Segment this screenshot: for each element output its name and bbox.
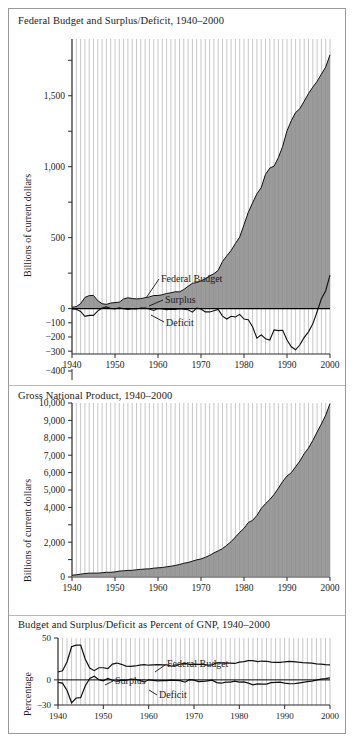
ytick-label-stray: −400: [45, 366, 65, 376]
annotation-deficit: Deficit: [159, 689, 187, 700]
xtick-label: 1980: [235, 583, 254, 593]
xtick-label: 2000: [321, 360, 340, 370]
ytick-label: 8,000: [44, 433, 66, 443]
ytick-label: 0: [60, 304, 65, 314]
ytick-label: 500: [51, 233, 66, 243]
xtick-label: 2000: [321, 583, 340, 593]
xtick-label: 1940: [63, 360, 82, 370]
xtick-label: 1980: [230, 711, 249, 721]
xtick-label: 1950: [106, 583, 125, 593]
chart1-plot: −300−200−10005001,0001,50019401950196019…: [9, 9, 345, 385]
ytick-label: 10,000: [39, 398, 65, 408]
xtick-label: 1940: [63, 583, 82, 593]
annotation-surplus: Surplus: [115, 675, 146, 686]
chart3-group: −300501940195019601970198019902000Federa…: [37, 633, 340, 721]
chart2-group: 02,0004,0005,0006,0007,0008,0009,00010,0…: [39, 398, 340, 593]
ytick-label: 7,000: [44, 451, 66, 461]
ytick-label: −100: [45, 318, 65, 328]
ytick-label: 2,000: [44, 538, 66, 548]
chart3-svg: −300501940195019601970198019902000Federa…: [9, 616, 345, 734]
chart-panel-federal-budget: Federal Budget and Surplus/Deficit, 1940…: [9, 9, 345, 385]
chart-panel-gnp: Gross National Product, 1940–2000 Billio…: [9, 386, 345, 615]
figure-page: Federal Budget and Surplus/Deficit, 1940…: [0, 0, 355, 742]
ytick-label: 9,000: [44, 416, 66, 426]
ytick-label: 50: [42, 633, 52, 643]
xtick-label: 1950: [94, 711, 113, 721]
xtick-label: 1970: [192, 360, 211, 370]
ytick-label: 0: [60, 572, 65, 582]
ytick-label: 1,500: [44, 91, 66, 101]
xtick-label: 1970: [192, 583, 211, 593]
chart-panel-percent-gnp: Budget and Surplus/Deficit as Percent of…: [9, 616, 345, 734]
annotation-federal-budget: Federal Budget: [167, 658, 229, 669]
annotation-deficit: Deficit: [166, 317, 194, 328]
ytick-label: 6,000: [44, 468, 66, 478]
xtick-label: 1970: [185, 711, 204, 721]
xtick-label: 1960: [149, 583, 168, 593]
annotation-leader: [105, 681, 113, 685]
annotation-surplus: Surplus: [165, 294, 196, 305]
chart1-group: −300−200−10005001,0001,50019401950196019…: [44, 39, 340, 370]
chart2-plot: 02,0004,0005,0006,0007,0008,0009,00010,0…: [9, 386, 345, 615]
xtick-label: 1940: [49, 711, 68, 721]
xtick-label: 1980: [235, 360, 254, 370]
ytick-label: −300: [45, 347, 65, 357]
xtick-label: 1990: [276, 711, 295, 721]
ytick-label: −30: [37, 700, 52, 710]
xtick-label: 1950: [106, 360, 125, 370]
xtick-label: 1990: [278, 360, 297, 370]
ytick-label: 0: [47, 675, 52, 685]
annotation-leader: [155, 665, 165, 672]
chart1-svg: −300−200−10005001,0001,50019401950196019…: [9, 9, 345, 385]
ytick-label: 1,000: [44, 162, 66, 172]
xtick-label: 1960: [149, 360, 168, 370]
chart2-svg: 02,0004,0005,0006,0007,0008,0009,00010,0…: [9, 386, 345, 615]
xtick-label: 1960: [140, 711, 159, 721]
annotation-federal-budget: Federal Budget: [161, 273, 223, 284]
ytick-label: −200: [45, 332, 65, 342]
chart3-plot: −300501940195019601970198019902000Federa…: [9, 616, 345, 734]
xtick-label: 2000: [321, 711, 340, 721]
ytick-label: 5,000: [44, 485, 66, 495]
xtick-label: 1990: [278, 583, 297, 593]
ytick-label: 4,000: [44, 503, 66, 513]
